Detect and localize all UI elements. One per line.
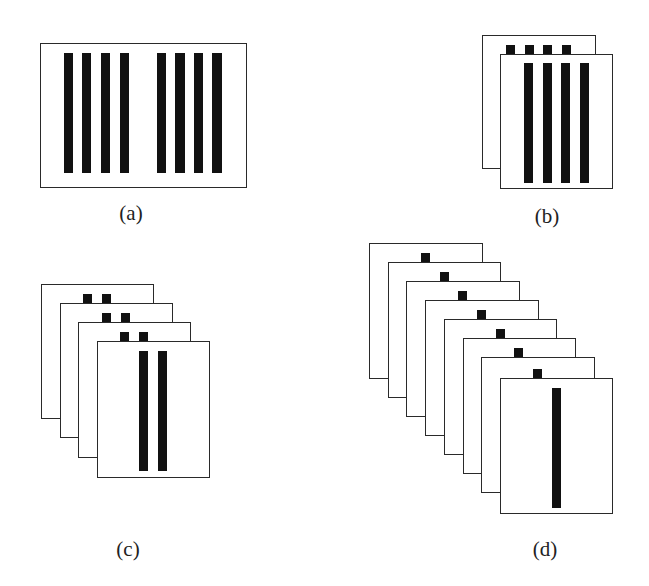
vertical-bar — [175, 53, 185, 173]
marker-square — [562, 45, 571, 54]
vertical-bar — [212, 53, 222, 173]
vertical-bar — [157, 53, 166, 173]
vertical-bar — [158, 351, 167, 471]
vertical-bar — [524, 63, 533, 183]
marker-square — [120, 332, 129, 341]
marker-square — [533, 369, 542, 378]
panel-label-d: (d) — [515, 537, 575, 561]
vertical-bar — [120, 53, 129, 173]
panel-label-c: (c) — [98, 537, 158, 561]
vertical-bar — [543, 63, 552, 183]
marker-square — [102, 294, 111, 303]
marker-square — [83, 294, 92, 303]
vertical-bar — [139, 351, 148, 471]
marker-square — [440, 272, 449, 281]
marker-square — [102, 313, 111, 322]
vertical-bar — [101, 53, 110, 173]
vertical-bar — [64, 53, 73, 173]
panel-label-a: (a) — [101, 201, 161, 225]
marker-square — [477, 310, 486, 319]
marker-square — [139, 332, 148, 341]
marker-square — [506, 45, 515, 54]
marker-square — [458, 291, 467, 300]
vertical-bar — [82, 53, 91, 173]
marker-square — [121, 313, 130, 322]
panel-label-b: (b) — [517, 204, 577, 228]
front-frame — [97, 341, 210, 478]
vertical-bar — [194, 53, 203, 173]
marker-square — [421, 253, 430, 262]
vertical-bar — [552, 388, 561, 508]
marker-square — [543, 45, 552, 54]
vertical-bar — [580, 63, 589, 183]
vertical-bar — [561, 63, 570, 183]
front-frame — [500, 54, 613, 189]
marker-square — [514, 348, 523, 357]
marker-square — [496, 329, 505, 338]
marker-square — [525, 45, 534, 54]
